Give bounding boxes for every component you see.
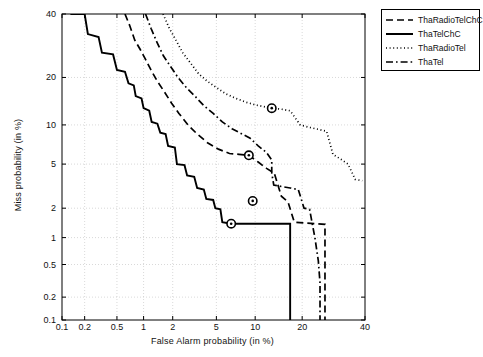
curve-ThaRadioTel <box>163 14 362 181</box>
legend-line-swatch <box>385 57 414 67</box>
eer-marker-dot-ThaRadioTelChC <box>248 154 251 157</box>
legend: ThaRadioTelChCThaTelChCThaRadioTelThaTel <box>381 9 480 71</box>
legend-item-ThaRadioTelChC[interactable]: ThaRadioTelChC <box>382 13 479 27</box>
x-tick-label: 10 <box>250 322 260 332</box>
y-tick-label: 2 <box>20 203 56 213</box>
legend-item-ThaRadioTel[interactable]: ThaRadioTel <box>382 41 479 55</box>
legend-label: ThaRadioTelChC <box>418 15 483 25</box>
x-tick-label: 0.5 <box>111 322 124 332</box>
legend-label: ThaRadioTel <box>418 43 466 53</box>
x-tick-label: 0.1 <box>56 322 69 332</box>
y-tick-label: 0.5 <box>20 260 56 270</box>
x-tick-label: 40 <box>360 322 370 332</box>
curve-ThaTelChC <box>70 14 290 320</box>
y-tick-label: 10 <box>20 120 56 130</box>
legend-item-ThaTel[interactable]: ThaTel <box>382 55 479 69</box>
legend-label: ThaTelChC <box>418 29 461 39</box>
x-axis-title: False Alarm probability (in %) <box>0 336 425 346</box>
legend-line-swatch <box>385 43 414 53</box>
x-tick-label: 0.2 <box>78 322 91 332</box>
y-tick-label: 5 <box>20 159 56 169</box>
legend-item-ThaTelChC[interactable]: ThaTelChC <box>382 27 479 41</box>
curve-ThaTel <box>146 14 320 320</box>
eer-markers <box>227 104 276 228</box>
y-tick-label: 20 <box>20 72 56 82</box>
eer-marker-dot-ThaRadioTel <box>270 107 273 110</box>
curve-ThaRadioTelChC <box>125 14 325 320</box>
det-curve-chart: 0.10.20.51251020404020105210.50.20.1 Fal… <box>0 0 483 357</box>
legend-label: ThaTel <box>418 57 444 67</box>
y-tick-label: 0.1 <box>20 315 56 325</box>
legend-line-swatch <box>385 15 414 25</box>
x-tick-label: 5 <box>214 322 219 332</box>
y-tick-label: 0.2 <box>20 292 56 302</box>
x-tick-label: 1 <box>141 322 146 332</box>
y-tick-label: 1 <box>20 233 56 243</box>
x-tick-label: 2 <box>170 322 175 332</box>
x-tick-label: 20 <box>297 322 307 332</box>
y-axis-title: Miss probability (in %) <box>13 85 23 245</box>
eer-marker-dot-ThaTelChC <box>230 222 233 225</box>
legend-line-swatch <box>385 29 414 39</box>
eer-marker-dot-ThaTel <box>251 200 254 203</box>
y-tick-label: 40 <box>20 9 56 19</box>
